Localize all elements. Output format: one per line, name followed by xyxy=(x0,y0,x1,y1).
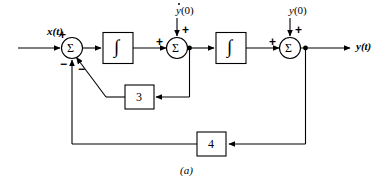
summer-1-sign-input: + xyxy=(59,29,66,41)
figure-caption: (a) xyxy=(180,165,193,176)
gain-inner-value: 3 xyxy=(136,91,142,103)
summer-2-sign-input: + xyxy=(156,36,163,48)
y-arg: (0) xyxy=(294,4,307,16)
summer-3-sign-input: + xyxy=(269,36,276,48)
summer-3-sign-top: + xyxy=(295,24,302,36)
y-initial-condition-label: y(0) xyxy=(289,5,307,16)
ydot-initial-condition-label: y(0) xyxy=(176,5,194,16)
block-diagram-figure: x(t) y(t) y(0) y(0) Σ + − − Σ + + Σ + + … xyxy=(0,0,389,187)
integrator-2-symbol: ∫ xyxy=(227,37,232,56)
output-signal-label: y(t) xyxy=(356,41,371,52)
ydot-arg: (0) xyxy=(181,4,194,16)
summer-3-symbol: Σ xyxy=(285,42,292,54)
summer-2-symbol: Σ xyxy=(172,42,179,54)
summer-2-sign-top: + xyxy=(182,24,189,36)
summer-1-sign-outer-feedback: − xyxy=(60,58,67,70)
summer-1-symbol: Σ xyxy=(67,42,74,54)
ydot-base: y xyxy=(176,5,181,16)
integrator-1-symbol: ∫ xyxy=(114,37,119,56)
summer-1-sign-inner-feedback: − xyxy=(78,63,85,75)
gain-outer-value: 4 xyxy=(208,138,214,150)
